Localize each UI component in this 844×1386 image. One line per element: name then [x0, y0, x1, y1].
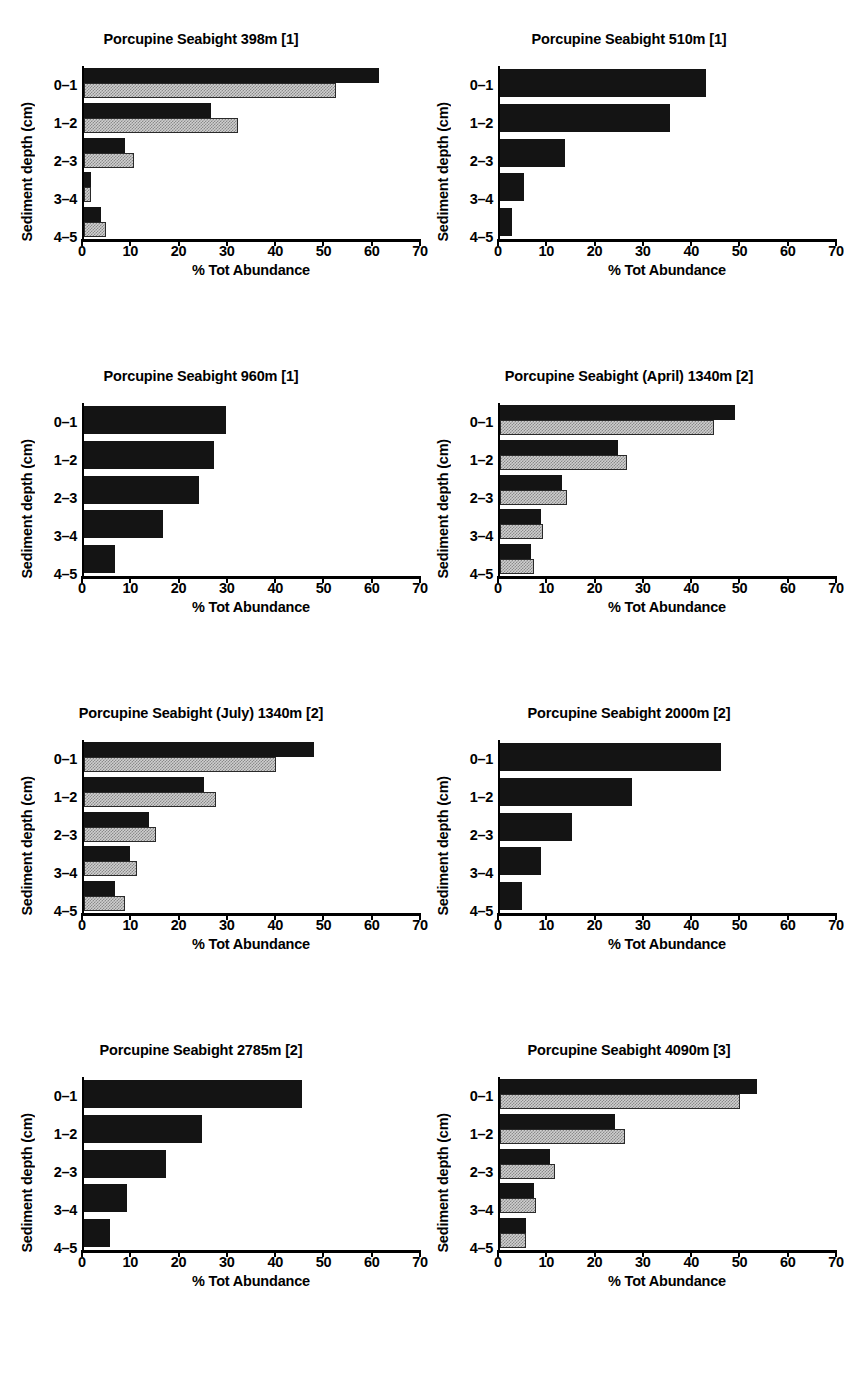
y-axis-tick-label: 1–2: [454, 441, 498, 479]
x-axis-tick-label: 40: [267, 243, 283, 259]
bar-group: [500, 170, 836, 205]
x-axis-tick-label: 50: [732, 243, 748, 259]
bar-group: [84, 66, 420, 101]
bar-dark: [84, 172, 91, 187]
bar-dark: [500, 847, 541, 875]
chart-body: Sediment depth (cm)0–11–22–33–44–5010203…: [432, 1077, 836, 1289]
bar-dark: [500, 813, 572, 841]
x-axis-tick-label: 50: [732, 580, 748, 596]
chart-panel: Porcupine Seabight (July) 1340m [2]Sedim…: [10, 706, 426, 1043]
y-axis-label: Sediment depth (cm): [432, 66, 454, 278]
bar-group: [500, 66, 836, 101]
bar-group: [500, 844, 836, 879]
x-axis-tick-label: 30: [635, 1254, 651, 1270]
y-axis-tick-label: 3–4: [38, 854, 82, 892]
y-axis-label: Sediment depth (cm): [16, 66, 38, 278]
y-axis-tick-label: 3–4: [454, 854, 498, 892]
bar-light: [84, 861, 137, 876]
bar-dark: [500, 1149, 550, 1164]
bar-dark: [500, 778, 632, 806]
bar-dark: [84, 1115, 202, 1143]
bar-group: [500, 205, 836, 240]
x-axis-tick-label: 10: [539, 917, 555, 933]
bar-group: [84, 1181, 420, 1216]
bar-group: [84, 438, 420, 473]
x-axis-tick-label: 40: [683, 580, 699, 596]
bar-dark: [84, 812, 149, 827]
y-axis-label: Sediment depth (cm): [16, 1077, 38, 1289]
y-axis-tick-label: 2–3: [454, 479, 498, 517]
x-axis-label: % Tot Abundance: [82, 1273, 420, 1289]
bar-dark: [500, 509, 541, 524]
bar-dark: [500, 1218, 526, 1233]
chart-panel: Porcupine Seabight (April) 1340m [2]Sedi…: [426, 369, 842, 706]
x-axis-label: % Tot Abundance: [82, 599, 420, 615]
plot-area-wrapper: 010203040506070% Tot Abundance: [498, 740, 836, 952]
y-axis-label-text: Sediment depth (cm): [19, 102, 35, 242]
y-axis-label-text: Sediment depth (cm): [19, 439, 35, 579]
bar-group: [500, 1077, 836, 1112]
bar-light: [500, 524, 543, 539]
plot-area-wrapper: 010203040506070% Tot Abundance: [82, 66, 420, 278]
y-axis-label-text: Sediment depth (cm): [19, 1113, 35, 1253]
x-axis-tick-label: 40: [683, 917, 699, 933]
bar-dark: [84, 68, 379, 83]
bar-dark: [500, 882, 522, 910]
bar-group: [500, 472, 836, 507]
y-axis-tick-label: 1–2: [38, 778, 82, 816]
bar-dark: [84, 476, 199, 504]
plot-area: [82, 1077, 420, 1251]
bar-rows: [84, 66, 420, 240]
y-axis-tick-labels: 0–11–22–33–44–5: [454, 66, 498, 278]
chart-panel: Porcupine Seabight 2000m [2]Sediment dep…: [426, 706, 842, 1043]
bar-dark: [500, 1183, 534, 1198]
bar-group: [84, 879, 420, 914]
bar-dark: [84, 742, 314, 757]
x-axis-tick-label: 10: [539, 1254, 555, 1270]
x-axis-tick-labels: 010203040506070: [498, 579, 836, 597]
y-axis-tick-label: 3–4: [38, 1191, 82, 1229]
x-axis-tick-label: 40: [683, 1254, 699, 1270]
plot-area: [498, 1077, 836, 1251]
x-axis-tick-label: 40: [683, 243, 699, 259]
bar-light: [84, 83, 336, 98]
y-axis-tick-label: 0–1: [38, 740, 82, 778]
plot-area: [498, 403, 836, 577]
y-axis-label: Sediment depth (cm): [16, 403, 38, 615]
bar-group: [500, 542, 836, 577]
plot-area-wrapper: 010203040506070% Tot Abundance: [82, 740, 420, 952]
y-axis-tick-label: 1–2: [38, 441, 82, 479]
x-axis-tick-label: 60: [780, 580, 796, 596]
bar-group: [84, 740, 420, 775]
y-axis-tick-labels: 0–11–22–33–44–5: [454, 1077, 498, 1289]
plot-area-wrapper: 010203040506070% Tot Abundance: [498, 66, 836, 278]
chart-title: Porcupine Seabight 398m [1]: [16, 32, 420, 48]
chart-title: Porcupine Seabight (July) 1340m [2]: [16, 706, 420, 722]
bar-light: [84, 827, 156, 842]
y-axis-tick-label: 4–5: [454, 218, 498, 256]
bar-dark: [500, 743, 721, 771]
bar-dark: [84, 1219, 110, 1247]
bar-group: [84, 205, 420, 240]
y-axis-label-text: Sediment depth (cm): [435, 776, 451, 916]
bar-dark: [500, 69, 706, 97]
bar-group: [500, 1146, 836, 1181]
x-axis-tick-labels: 010203040506070: [82, 1253, 420, 1271]
x-axis-tick-label: 20: [171, 917, 187, 933]
x-axis-tick-labels: 010203040506070: [82, 579, 420, 597]
bar-dark: [84, 1184, 127, 1212]
x-axis-label: % Tot Abundance: [82, 262, 420, 278]
bar-group: [500, 740, 836, 775]
y-axis-label: Sediment depth (cm): [432, 740, 454, 952]
y-axis-tick-label: 2–3: [454, 1153, 498, 1191]
bar-group: [84, 1077, 420, 1112]
chart-title: Porcupine Seabight 510m [1]: [432, 32, 836, 48]
bar-rows: [84, 1077, 420, 1251]
bar-rows: [500, 66, 836, 240]
x-axis-tick-label: 60: [364, 1254, 380, 1270]
y-axis-tick-label: 4–5: [38, 218, 82, 256]
chart-panel: Porcupine Seabight 510m [1]Sediment dept…: [426, 32, 842, 369]
bar-group: [84, 844, 420, 879]
y-axis-tick-label: 4–5: [38, 1229, 82, 1267]
bar-light: [500, 1129, 625, 1144]
